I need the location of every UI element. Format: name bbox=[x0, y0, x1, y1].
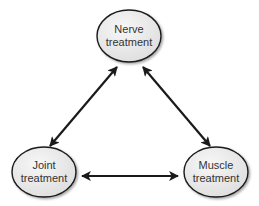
node-muscle-label-line1: Muscle bbox=[199, 159, 234, 171]
arrow-nerve-joint bbox=[50, 67, 117, 146]
node-nerve-label-line1: Nerve bbox=[114, 23, 143, 35]
node-nerve-treatment: Nerve treatment bbox=[97, 10, 161, 62]
node-joint-treatment: Joint treatment bbox=[12, 147, 76, 197]
node-muscle-label-line2: treatment bbox=[193, 172, 239, 184]
node-nerve-label-line2: treatment bbox=[106, 36, 152, 48]
node-muscle-treatment: Muscle treatment bbox=[184, 147, 248, 197]
arrow-nerve-muscle bbox=[143, 67, 210, 146]
node-joint-label-line1: Joint bbox=[32, 159, 55, 171]
node-joint-label-line2: treatment bbox=[21, 172, 67, 184]
treatment-triangle-diagram: Nerve treatment Joint treatment Muscle t… bbox=[0, 0, 259, 206]
